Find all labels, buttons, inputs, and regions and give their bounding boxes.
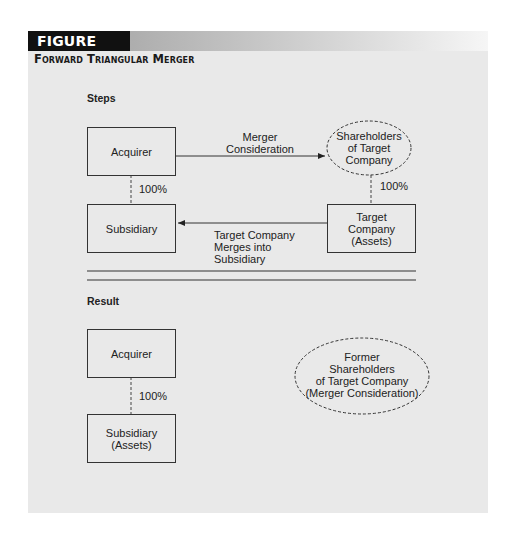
target-line-2: Company (348, 223, 395, 235)
merges-into-label: Target Company Merges into Subsidiary (214, 229, 295, 265)
former-shareholders-text: Former Shareholders of Target Company (M… (292, 351, 432, 399)
merges-into-line-3: Subsidiary (214, 253, 295, 265)
merger-consideration-label: Merger Consideration (210, 131, 310, 155)
result-subsidiary-line-2: (Assets) (111, 439, 151, 451)
steps-acquirer-label: Acquirer (111, 146, 152, 158)
connector-layer (0, 0, 510, 542)
target-company-box: Target Company (Assets) (327, 204, 416, 253)
result-acquirer-box: Acquirer (87, 329, 176, 378)
shareholders-text: Shareholders of Target Company (322, 130, 416, 166)
target-line-1: Target (356, 211, 387, 223)
steps-subsidiary-box: Subsidiary (87, 204, 176, 253)
former-line-3: of Target Company (292, 375, 432, 387)
merger-consideration-line-1: Merger (210, 131, 310, 143)
result-subsidiary-line-1: Subsidiary (106, 427, 157, 439)
result-subsidiary-box: Subsidiary (Assets) (87, 414, 176, 463)
steps-shareholders-ownership-pct: 100% (380, 180, 408, 192)
shareholders-line-1: Shareholders (322, 130, 416, 142)
merges-into-line-2: Merges into (214, 241, 295, 253)
former-line-2: Shareholders (292, 363, 432, 375)
merger-consideration-line-2: Consideration (210, 143, 310, 155)
steps-acquirer-box: Acquirer (87, 127, 176, 176)
shareholders-line-2: of Target (322, 142, 416, 154)
result-heading: Result (87, 295, 119, 307)
former-line-1: Former (292, 351, 432, 363)
steps-heading: Steps (87, 92, 116, 104)
steps-acquirer-ownership-pct: 100% (139, 183, 167, 195)
former-line-4: (Merger Consideration) (292, 387, 432, 399)
shareholders-line-3: Company (322, 154, 416, 166)
result-acquirer-label: Acquirer (111, 348, 152, 360)
merges-into-line-1: Target Company (214, 229, 295, 241)
steps-subsidiary-label: Subsidiary (106, 223, 157, 235)
target-line-3: (Assets) (351, 235, 391, 247)
result-ownership-pct: 100% (139, 390, 167, 402)
